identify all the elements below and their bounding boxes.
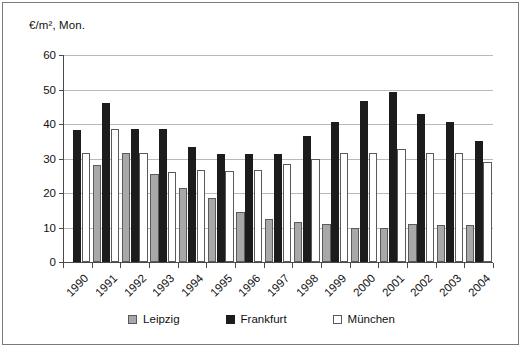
x-axis-tick-mark	[92, 263, 93, 268]
bar-leipzig-1994	[179, 188, 187, 262]
bar-leipzig-2004	[466, 225, 474, 262]
chart-legend: LeipzigFrankfurtMünchen	[0, 313, 523, 325]
legend-label: Leipzig	[143, 313, 179, 325]
x-axis-tick-mark	[378, 263, 379, 268]
x-axis-tick-mark	[120, 263, 121, 268]
bar-frankfurt-1994	[188, 147, 196, 262]
bar-frankfurt-1992	[131, 129, 139, 262]
x-axis-tick-mark	[178, 263, 179, 268]
bar-munchen-2000	[369, 153, 377, 262]
bar-frankfurt-2001	[389, 92, 397, 262]
bar-group	[178, 55, 207, 262]
bar-frankfurt-1993	[159, 129, 167, 262]
bar-leipzig-1996	[236, 212, 244, 262]
bar-frankfurt-1997	[274, 154, 282, 262]
bar-group	[407, 55, 436, 262]
bar-leipzig-1997	[265, 219, 273, 262]
bar-group	[120, 55, 149, 262]
bar-leipzig-2003	[437, 225, 445, 262]
legend-item-frankfurt[interactable]: Frankfurt	[226, 313, 287, 325]
x-axis-tick-mark	[206, 263, 207, 268]
bar-munchen-1996	[254, 170, 262, 262]
bar-munchen-1995	[225, 171, 233, 262]
bar-munchen-1999	[340, 153, 348, 262]
bar-leipzig-2002	[408, 224, 416, 262]
bar-munchen-1997	[283, 164, 291, 262]
y-axis-tick-label: 50	[43, 84, 56, 96]
y-axis-tick-label: 30	[43, 153, 56, 165]
bar-group	[436, 55, 465, 262]
bar-leipzig-1991	[93, 165, 101, 262]
bar-leipzig-1998	[294, 222, 302, 262]
x-axis-tick-mark	[63, 263, 64, 268]
bar-munchen-1993	[168, 172, 176, 262]
y-axis-tick-labels: 0102030405060	[28, 0, 56, 348]
legend-swatch-muenchen-icon	[333, 315, 342, 324]
bar-frankfurt-2002	[417, 114, 425, 262]
x-axis-tick-mark	[235, 263, 236, 268]
x-axis-tick-mark	[407, 263, 408, 268]
bar-group	[378, 55, 407, 262]
x-axis-tick-mark	[464, 263, 465, 268]
bar-frankfurt-1991	[102, 103, 110, 262]
bar-chart: €/m², Mon. 0102030405060 199019911992199…	[0, 0, 523, 348]
bar-group	[264, 55, 293, 262]
legend-item-leipzig[interactable]: Leipzig	[128, 313, 179, 325]
plot-area	[63, 55, 493, 262]
x-axis-tick-mark	[264, 263, 265, 268]
bar-munchen-2003	[455, 153, 463, 262]
bar-munchen-2001	[397, 149, 405, 262]
x-axis-tick-mark	[292, 263, 293, 268]
bar-munchen-2002	[426, 153, 434, 262]
y-axis-tick-label: 0	[50, 256, 56, 268]
bar-munchen-1992	[139, 153, 147, 262]
bar-frankfurt-1998	[303, 136, 311, 262]
bar-frankfurt-1999	[331, 122, 339, 262]
x-axis-tick-mark	[493, 263, 494, 268]
bar-leipzig-1999	[322, 224, 330, 262]
bar-frankfurt-1995	[217, 154, 225, 262]
bar-frankfurt-1990	[73, 130, 81, 262]
bar-munchen-1994	[197, 170, 205, 262]
x-axis-tick-mark	[149, 263, 150, 268]
bar-frankfurt-2004	[475, 141, 483, 262]
bar-group	[63, 55, 92, 262]
legend-item-munchen[interactable]: München	[333, 313, 395, 325]
bar-munchen-2004	[483, 162, 491, 262]
bar-leipzig-1993	[150, 174, 158, 262]
bar-leipzig-1992	[122, 153, 130, 262]
legend-label: Frankfurt	[241, 313, 287, 325]
bar-group	[92, 55, 121, 262]
bar-frankfurt-2000	[360, 101, 368, 262]
bar-leipzig-2000	[351, 228, 359, 262]
bar-frankfurt-1996	[245, 154, 253, 262]
bar-frankfurt-2003	[446, 122, 454, 262]
y-axis-tick-label: 20	[43, 187, 56, 199]
bar-munchen-1998	[311, 159, 319, 263]
y-axis-tick-label: 10	[43, 222, 56, 234]
legend-swatch-frankfurt-icon	[226, 315, 235, 324]
bar-group	[206, 55, 235, 262]
bar-munchen-1991	[111, 129, 119, 262]
bar-munchen-1990	[82, 153, 90, 262]
bar-group	[464, 55, 493, 262]
bar-group	[292, 55, 321, 262]
legend-label: München	[348, 313, 395, 325]
y-axis-tick-label: 60	[43, 49, 56, 61]
legend-swatch-leipzig-icon	[128, 315, 137, 324]
x-axis-tick-mark	[350, 263, 351, 268]
bar-group	[350, 55, 379, 262]
bar-leipzig-2001	[380, 228, 388, 262]
y-axis-tick-label: 40	[43, 118, 56, 130]
bar-group	[321, 55, 350, 262]
x-axis-tick-mark	[321, 263, 322, 268]
x-axis-tick-mark	[436, 263, 437, 268]
x-axis-line	[63, 262, 493, 263]
bar-group	[235, 55, 264, 262]
bar-group	[149, 55, 178, 262]
bar-leipzig-1995	[208, 198, 216, 262]
